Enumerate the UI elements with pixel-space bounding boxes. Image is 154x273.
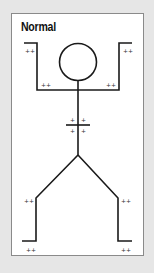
reflex-abdomen-lower-left: + bbox=[70, 127, 75, 134]
reflex-abdomen-lower-right: + bbox=[81, 127, 86, 134]
reflex-left-hand: ++ bbox=[25, 47, 35, 54]
reflex-abdomen-upper-right: + bbox=[81, 116, 86, 123]
reflex-right-elbow: ++ bbox=[106, 81, 116, 88]
reflex-left-knee: ++ bbox=[24, 197, 34, 204]
reflex-right-ankle: ++ bbox=[121, 246, 131, 253]
head-circle bbox=[60, 44, 97, 81]
reflex-left-elbow: ++ bbox=[41, 81, 51, 88]
reflex-right-knee: ++ bbox=[121, 197, 131, 204]
reflex-right-hand: ++ bbox=[123, 47, 133, 54]
stick-figure: ++ ++ ++ ++ + + + + ++ ++ ++ ++ bbox=[0, 0, 154, 273]
reflex-left-ankle: ++ bbox=[26, 246, 36, 253]
reflex-abdomen-upper-left: + bbox=[70, 116, 75, 123]
